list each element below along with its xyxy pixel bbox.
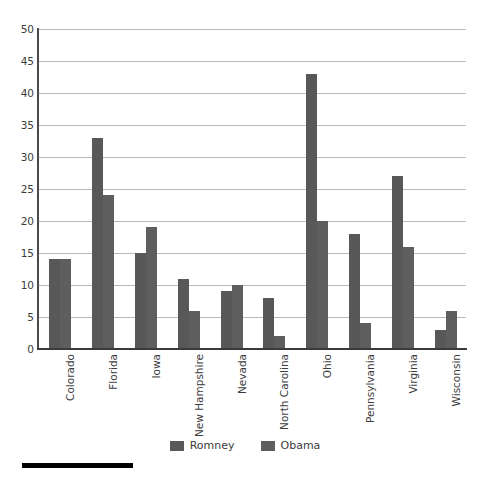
- bar-group-virginia: [392, 29, 414, 349]
- y-tick-label-10: 10: [0, 280, 34, 291]
- x-tick-label-florida: Florida: [108, 354, 119, 390]
- bar-romney-north-carolina: [263, 298, 274, 349]
- bar-romney-colorado: [49, 259, 60, 349]
- bar-group-ohio: [306, 29, 328, 349]
- bar-romney-pennsylvania: [349, 234, 360, 349]
- chart-legend: RomneyObama: [0, 440, 490, 451]
- x-tick-label-north-carolina: North Carolina: [279, 354, 290, 430]
- y-tick-label-15: 15: [0, 248, 34, 259]
- bar-obama-nevada: [232, 285, 243, 349]
- bar-romney-nevada: [221, 291, 232, 349]
- bar-obama-florida: [103, 195, 114, 349]
- bar-obama-virginia: [403, 247, 414, 349]
- y-tick-label-0: 0: [0, 344, 34, 355]
- y-tick-label-30: 30: [0, 152, 34, 163]
- bar-romney-ohio: [306, 74, 317, 349]
- y-tick-label-45: 45: [0, 56, 34, 67]
- bar-obama-colorado: [60, 259, 71, 349]
- y-tick-label-35: 35: [0, 120, 34, 131]
- bar-romney-new-hampshire: [178, 279, 189, 349]
- bar-romney-wisconsin: [435, 330, 446, 349]
- bar-romney-virginia: [392, 176, 403, 349]
- y-tick-label-25: 25: [0, 184, 34, 195]
- x-tick-label-new-hampshire: New Hampshire: [194, 354, 205, 437]
- legend-swatch-romney: [170, 441, 184, 451]
- x-tick-label-nevada: Nevada: [237, 354, 248, 394]
- bottom-rule-decoration: [22, 463, 133, 468]
- bar-group-florida: [92, 29, 114, 349]
- bar-group-wisconsin: [435, 29, 457, 349]
- x-tick-label-colorado: Colorado: [65, 354, 76, 401]
- legend-item-obama[interactable]: Obama: [261, 440, 321, 451]
- x-tick-label-wisconsin: Wisconsin: [451, 354, 462, 406]
- bar-obama-wisconsin: [446, 311, 457, 349]
- y-axis-tick-labels: 50454035302520151050: [0, 0, 34, 478]
- bar-group-pennsylvania: [349, 29, 371, 349]
- legend-label-romney: Romney: [190, 440, 235, 451]
- bar-romney-florida: [92, 138, 103, 349]
- y-axis-line: [37, 28, 39, 350]
- bar-romney-iowa: [135, 253, 146, 349]
- legend-item-romney[interactable]: Romney: [170, 440, 235, 451]
- y-tick-label-40: 40: [0, 88, 34, 99]
- bar-obama-iowa: [146, 227, 157, 349]
- bar-obama-pennsylvania: [360, 323, 371, 349]
- bar-obama-ohio: [317, 221, 328, 349]
- bar-obama-new-hampshire: [189, 311, 200, 349]
- bar-group-iowa: [135, 29, 157, 349]
- x-tick-label-virginia: Virginia: [408, 354, 419, 394]
- legend-label-obama: Obama: [281, 440, 321, 451]
- x-tick-label-pennsylvania: Pennsylvania: [365, 354, 376, 423]
- legend-swatch-obama: [261, 441, 275, 451]
- x-tick-label-iowa: Iowa: [151, 354, 162, 379]
- x-tick-label-ohio: Ohio: [322, 354, 333, 378]
- y-tick-label-20: 20: [0, 216, 34, 227]
- bar-group-north-carolina: [263, 29, 285, 349]
- bar-group-nevada: [221, 29, 243, 349]
- y-tick-label-5: 5: [0, 312, 34, 323]
- x-axis-line: [37, 348, 467, 350]
- y-tick-label-50: 50: [0, 24, 34, 35]
- bar-group-colorado: [49, 29, 71, 349]
- bar-chart: 50454035302520151050 ColoradoFloridaIowa…: [0, 0, 490, 478]
- bar-group-new-hampshire: [178, 29, 200, 349]
- plot-area: [38, 29, 466, 349]
